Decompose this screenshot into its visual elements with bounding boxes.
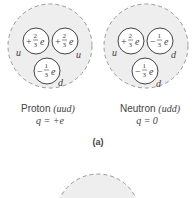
svg-text:2: 2 xyxy=(129,32,133,40)
svg-text:e: e xyxy=(51,66,56,77)
svg-text:e: e xyxy=(40,36,45,47)
partial-hadron-boundary xyxy=(56,174,140,198)
svg-text:+: + xyxy=(55,36,61,47)
neutron-name: Neutron (udd) xyxy=(120,103,181,115)
neutron-diagram: + 2 3 e u − 1 3 e d − 1 3 e d xyxy=(104,4,188,89)
neutron-charge: q = 0 xyxy=(136,115,158,126)
svg-text:2: 2 xyxy=(63,32,67,40)
svg-text:e: e xyxy=(164,36,169,47)
svg-text:e: e xyxy=(135,36,140,47)
svg-text:3: 3 xyxy=(129,41,133,49)
svg-text:−: − xyxy=(37,66,43,77)
svg-text:e: e xyxy=(69,36,74,47)
svg-text:+: + xyxy=(26,36,32,47)
svg-text:u: u xyxy=(112,47,117,58)
svg-text:1: 1 xyxy=(143,62,147,70)
svg-text:1: 1 xyxy=(45,62,49,70)
svg-text:−: − xyxy=(150,36,156,47)
svg-text:u: u xyxy=(76,49,81,60)
svg-text:+: + xyxy=(121,36,127,47)
svg-text:1: 1 xyxy=(158,32,162,40)
svg-text:3: 3 xyxy=(158,41,162,49)
svg-text:3: 3 xyxy=(143,71,147,79)
svg-text:3: 3 xyxy=(63,41,67,49)
svg-text:3: 3 xyxy=(45,71,49,79)
proton-charge: q = +e xyxy=(36,115,64,126)
proton-name: Proton (uud) xyxy=(21,103,76,115)
proton-diagram: + 2 3 e u + 2 3 e u − 1 3 e d xyxy=(8,4,92,88)
quark-diagram: + 2 3 e u + 2 3 e u − 1 3 e d xyxy=(0,0,195,198)
svg-text:e: e xyxy=(149,66,154,77)
svg-text:3: 3 xyxy=(34,41,38,49)
svg-text:u: u xyxy=(16,47,21,58)
svg-text:−: − xyxy=(135,66,141,77)
svg-text:2: 2 xyxy=(34,32,38,40)
figure-label: (a) xyxy=(93,137,104,147)
